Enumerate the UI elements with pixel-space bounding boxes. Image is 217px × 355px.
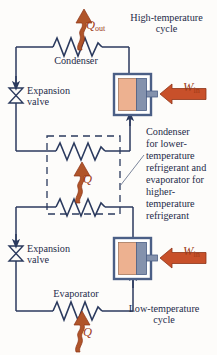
cascade-condenser-coil-icon xyxy=(56,143,105,160)
label-cascade-heat-exchanger: Condenser for lower- temperature refrige… xyxy=(146,126,217,222)
symbol-q-out-subscript: out xyxy=(95,24,105,33)
symbol-w-in-top-subscript: in xyxy=(193,86,199,95)
label-condenser: Condenser xyxy=(36,55,116,66)
symbol-q-bottom: Q xyxy=(83,325,92,340)
compressor-top-icon xyxy=(114,74,158,115)
symbol-w-in-top: Win xyxy=(183,80,200,95)
expansion-valve-bottom-icon xyxy=(9,246,23,261)
symbol-q-out-base: Q xyxy=(86,18,95,32)
expansion-valve-top-icon xyxy=(9,88,23,103)
compressor-bottom-icon xyxy=(114,238,158,279)
label-evaporator: Evaporator xyxy=(36,288,116,299)
symbol-w-in-bottom-subscript: in xyxy=(193,250,199,259)
symbol-w-in-top-base: W xyxy=(183,80,193,94)
cascade-refrigeration-diagram: High-temperature cycle Condenser Expansi… xyxy=(0,0,217,355)
symbol-q-out: Qout xyxy=(86,18,105,33)
evaporator-coil-icon xyxy=(53,302,102,320)
label-expansion-valve-top: Expansion valve xyxy=(27,85,70,108)
callout-leader-line xyxy=(120,155,144,186)
symbol-w-in-bottom-base: W xyxy=(183,244,193,258)
label-expansion-valve-bottom: Expansion valve xyxy=(27,243,70,266)
label-low-temperature-cycle: Low-temperature cycle xyxy=(112,303,216,326)
symbol-w-in-bottom: Win xyxy=(183,244,200,259)
symbol-q-middle: Q xyxy=(83,172,92,187)
label-high-temperature-cycle: High-temperature cycle xyxy=(118,12,215,35)
